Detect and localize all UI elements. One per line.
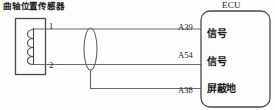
ecu-pin-a54-function: 信号 xyxy=(207,57,226,67)
sensor-terminal-2-label: 2 xyxy=(49,61,53,70)
sensor-body-box xyxy=(16,19,46,75)
ecu-pin-a38-function: 屏蔽地 xyxy=(207,84,236,94)
coil-icon xyxy=(28,28,34,65)
sensor-terminal-1-label: 1 xyxy=(49,22,53,31)
ecu-pin-a39-label: A39 xyxy=(178,23,193,32)
ecu-pin-a54-label: A54 xyxy=(178,51,193,60)
wiring-diagram: 曲轴位置传感器 ECU 1 2 A39 A54 A38 信号 信号 屏蔽地 xyxy=(0,0,275,110)
ecu-pin-a38-label: A38 xyxy=(178,86,193,95)
ecu-pin-a39-function: 信号 xyxy=(207,29,226,39)
sensor-title: 曲轴位置传感器 xyxy=(3,2,65,11)
shield-oval-icon xyxy=(84,28,97,70)
ecu-title: ECU xyxy=(222,1,241,10)
